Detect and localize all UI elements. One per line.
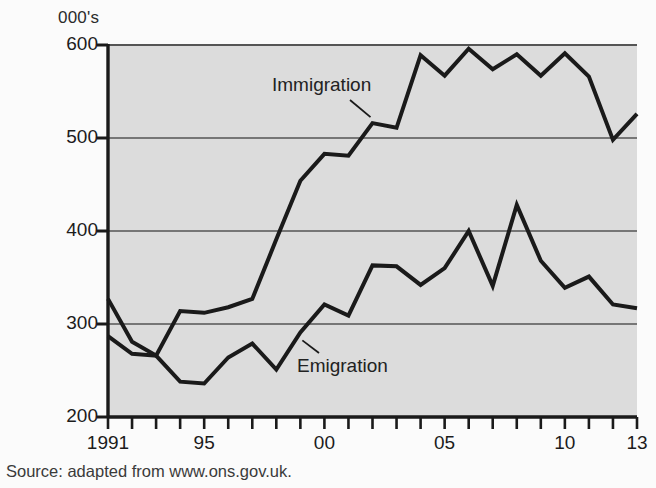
y-tick-label: 300 xyxy=(40,312,98,334)
x-tick-label: 13 xyxy=(602,432,656,454)
x-axis-ticks xyxy=(108,417,637,429)
y-tick-label: 500 xyxy=(40,126,98,148)
series-label-immigration: Immigration xyxy=(272,74,371,96)
x-tick-label: 95 xyxy=(169,432,239,454)
series-label-emigration: Emigration xyxy=(297,355,388,377)
x-tick-label: 00 xyxy=(289,432,359,454)
x-tick-label: 1991 xyxy=(73,432,143,454)
y-tick-label: 200 xyxy=(40,405,98,427)
x-tick-label: 10 xyxy=(530,432,600,454)
source-note: Source: adapted from www.ons.gov.uk. xyxy=(6,462,292,481)
y-tick-label: 400 xyxy=(40,219,98,241)
y-tick-label: 600 xyxy=(40,33,98,55)
chart-figure: 000's 200300400500600 19919500051013 Imm… xyxy=(0,0,656,488)
x-tick-label: 05 xyxy=(410,432,480,454)
